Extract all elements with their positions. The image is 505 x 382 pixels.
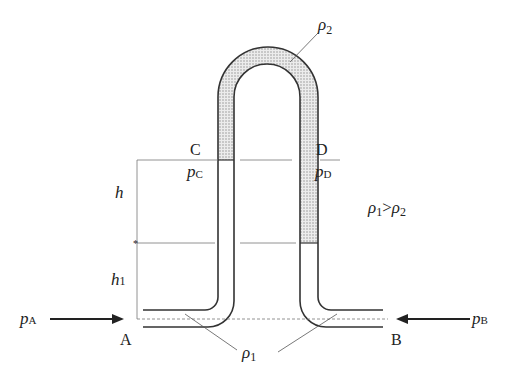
pb-label: pB xyxy=(471,309,488,328)
h-label: h xyxy=(115,183,124,202)
density-relation: ρ1>ρ2 xyxy=(367,198,406,219)
rho2-fluid-region xyxy=(218,47,318,243)
point-d-label: D xyxy=(316,141,328,158)
rho1-label: ρ1 xyxy=(241,343,256,364)
pd-label: pD xyxy=(314,162,332,181)
pa-label: pA xyxy=(19,309,37,328)
svg-text:*: * xyxy=(133,238,138,249)
rho2-label: ρ2 xyxy=(317,15,332,37)
point-b-label: B xyxy=(391,331,402,348)
rho2-leader xyxy=(290,33,318,62)
h1-label: h1 xyxy=(111,270,126,289)
point-a-label: A xyxy=(120,331,132,348)
manometer-diagram: * ρ2 C D pC pD h h1 ρ1>ρ2 pA pB A B ρ1 xyxy=(0,0,505,382)
tube-outer-wall xyxy=(143,47,383,310)
point-c-label: C xyxy=(190,141,201,158)
pc-label: pC xyxy=(186,162,203,181)
tube-inner-wall xyxy=(143,64,383,327)
arrow-pa-head xyxy=(112,314,124,324)
arrow-pb-head xyxy=(396,314,408,324)
